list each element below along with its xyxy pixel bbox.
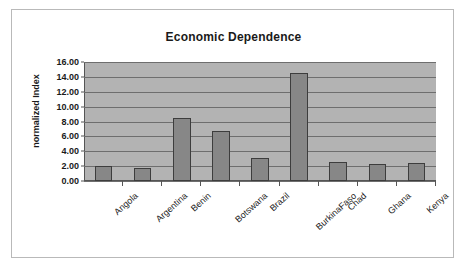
x-axis-label-benin: Benin	[189, 191, 213, 214]
y-axis-tick-label: 4.00	[61, 146, 79, 156]
bar-slot	[280, 62, 319, 181]
y-axis-tick-label: 10.00	[56, 102, 79, 112]
y-axis-tick-label: 12.00	[56, 87, 79, 97]
bar-angola[interactable]	[95, 166, 113, 181]
x-axis-label-brazil: Brazil	[267, 191, 290, 213]
bar-ghana[interactable]	[369, 164, 387, 181]
y-axis-tick-label: 0.00	[61, 176, 79, 186]
x-axis-tick-mark	[435, 181, 436, 186]
x-axis-label-ghana: Ghana	[386, 191, 413, 217]
bar-slot	[240, 62, 279, 181]
x-axis-tick-cell	[162, 181, 201, 187]
y-axis-title: normalized Index	[31, 56, 41, 166]
bar-brazil[interactable]	[251, 158, 269, 181]
x-axis-tick-cell	[201, 181, 240, 187]
x-axis-label-botswana: Botswana	[233, 191, 269, 225]
x-axis-tick-cell	[319, 181, 358, 187]
x-axis-ticks	[84, 181, 436, 187]
bar-argentina[interactable]	[134, 168, 152, 181]
chart-title: Economic Dependence	[12, 30, 455, 44]
bar-benin[interactable]	[173, 118, 191, 181]
bar-kenya[interactable]	[408, 163, 426, 181]
x-axis-tick-cell	[280, 181, 319, 187]
bar-slot	[162, 62, 201, 181]
x-axis-label-angola: Angola	[112, 191, 140, 217]
bar-slot	[84, 62, 123, 181]
x-axis-tick-cell	[397, 181, 436, 187]
bar-slot	[201, 62, 240, 181]
x-axis-tick-cell	[358, 181, 397, 187]
chart-container: Economic Dependence normalized Index 0.0…	[11, 9, 454, 258]
x-axis-tick-cell	[84, 181, 123, 187]
bar-slot	[397, 62, 436, 181]
x-axis-tick-cell	[123, 181, 162, 187]
x-axis-label-argentina: Argentina	[154, 191, 189, 224]
plot-area-wrapper: 0.002.004.006.008.0010.0012.0014.0016.00	[84, 62, 436, 181]
bar-slot	[358, 62, 397, 181]
y-axis-tick-label: 2.00	[61, 161, 79, 171]
y-axis-tick-label: 6.00	[61, 131, 79, 141]
x-axis-labels: AngolaArgentinaBeninBotswanaBrazilBurkin…	[84, 188, 436, 248]
bar-slot	[123, 62, 162, 181]
bars-group	[84, 62, 436, 181]
bar-chad[interactable]	[329, 162, 347, 181]
x-axis-tick-cell	[240, 181, 279, 187]
bar-botswana[interactable]	[212, 131, 230, 181]
bar-burkinafaso[interactable]	[290, 73, 308, 181]
bar-slot	[319, 62, 358, 181]
x-axis-label-kenya: Kenya	[425, 191, 451, 216]
y-axis-tick-label: 14.00	[56, 72, 79, 82]
y-axis-tick-label: 8.00	[61, 117, 79, 127]
y-axis-tick-label: 16.00	[56, 57, 79, 67]
